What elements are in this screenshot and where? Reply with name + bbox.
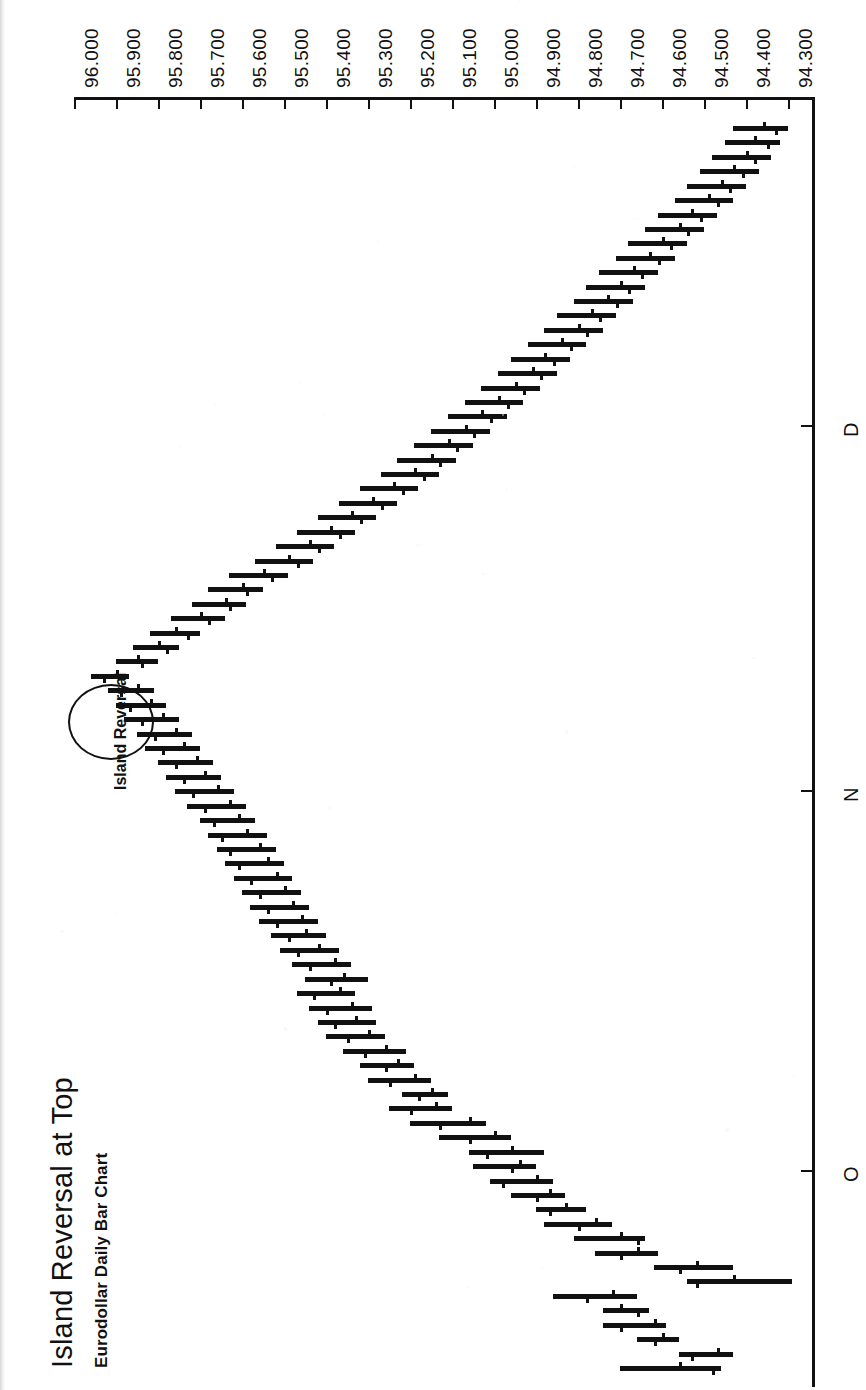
ohlc-bar	[0, 151, 866, 164]
ohlc-bar	[0, 1117, 866, 1130]
bar-open-tick	[158, 641, 161, 650]
bar-close-tick	[620, 1251, 623, 1260]
ohlc-bar	[0, 555, 866, 568]
bar-range	[603, 1323, 666, 1328]
bar-open-tick	[465, 425, 468, 434]
bar-range	[465, 400, 524, 405]
bar-range	[381, 472, 440, 477]
ohlc-bar	[0, 987, 866, 1000]
scan-speck	[284, 1027, 288, 1031]
bar-close-tick	[490, 414, 493, 423]
value-tick	[116, 100, 118, 109]
bar-open-tick	[162, 713, 165, 722]
bar-open-tick	[414, 468, 417, 477]
scan-speck	[735, 770, 737, 772]
bar-open-tick	[565, 1203, 568, 1212]
ohlc-bar	[0, 136, 866, 149]
ohlc-bar	[0, 1261, 866, 1274]
bar-close-tick	[570, 342, 573, 351]
bar-close-tick	[297, 559, 300, 568]
bar-close-tick	[402, 486, 405, 495]
bar-range	[234, 876, 293, 881]
scan-speck	[482, 573, 484, 575]
bar-open-tick	[305, 929, 308, 938]
bar-range	[490, 1179, 553, 1184]
bar-close-tick	[141, 659, 144, 668]
value-tick-label: 94.700	[627, 28, 649, 88]
bar-open-tick	[259, 843, 262, 852]
bar-range	[343, 1049, 406, 1054]
bar-close-tick	[549, 1207, 552, 1216]
bar-range	[603, 1308, 649, 1313]
bar-open-tick	[225, 598, 228, 607]
value-tick-label: 94.500	[711, 28, 733, 88]
bar-range	[725, 140, 780, 145]
bar-open-tick	[494, 1131, 497, 1140]
bar-open-tick	[351, 1002, 354, 1011]
ohlc-bar	[0, 843, 866, 856]
scan-speck	[565, 730, 569, 734]
value-tick	[74, 100, 76, 109]
bar-range	[658, 213, 717, 218]
bar-close-tick	[250, 876, 253, 885]
scan-speck	[322, 413, 325, 416]
bar-range	[574, 1236, 645, 1241]
value-tick	[410, 100, 412, 109]
bar-range	[175, 789, 234, 794]
bar-open-tick	[339, 987, 342, 996]
bar-range	[616, 256, 675, 261]
bar-range	[187, 804, 246, 809]
scan-speck	[123, 38, 126, 41]
bar-range	[557, 313, 616, 318]
bar-close-tick	[276, 919, 279, 928]
bar-open-tick	[620, 1304, 623, 1313]
scan-speck	[135, 826, 138, 829]
bar-close-tick	[729, 184, 732, 193]
scan-speck	[377, 240, 380, 243]
value-tick-label: 94.600	[669, 28, 691, 88]
ohlc-bar	[0, 1275, 866, 1288]
ohlc-bar	[0, 309, 866, 322]
ohlc-bar	[0, 526, 866, 539]
ohlc-bar	[0, 439, 866, 452]
bar-close-tick	[330, 977, 333, 986]
bar-open-tick	[754, 136, 757, 145]
ohlc-bar	[0, 901, 866, 914]
bar-open-tick	[267, 857, 270, 866]
bar-range	[242, 890, 301, 895]
bar-range	[305, 977, 368, 982]
bar-open-tick	[519, 1160, 522, 1169]
ohlc-bar	[0, 1131, 866, 1144]
scan-speck	[327, 806, 331, 810]
ohlc-bar	[0, 237, 866, 250]
bar-open-tick	[330, 526, 333, 535]
ohlc-bar	[0, 958, 866, 971]
bar-open-tick	[175, 728, 178, 737]
bar-open-tick	[649, 252, 652, 261]
bar-close-tick	[267, 905, 270, 914]
bar-close-tick	[238, 861, 241, 870]
chart-page: Island Reversal at Top Eurodollar Daily …	[0, 0, 866, 1390]
bar-range	[637, 1337, 679, 1342]
bar-open-tick	[229, 800, 232, 809]
bar-open-tick	[511, 1146, 514, 1155]
scan-speck	[580, 604, 583, 607]
bar-close-tick	[628, 285, 631, 294]
bar-close-tick	[523, 386, 526, 395]
bar-close-tick	[502, 1179, 505, 1188]
bar-close-tick	[309, 962, 312, 971]
ohlc-bar	[0, 1333, 866, 1346]
bar-range	[271, 933, 326, 938]
value-tick-label: 95.300	[375, 28, 397, 88]
bar-open-tick	[515, 382, 518, 391]
bar-close-tick	[360, 515, 363, 524]
bar-open-tick	[654, 1319, 657, 1328]
bar-range	[679, 1352, 734, 1357]
bar-close-tick	[700, 213, 703, 222]
bar-open-tick	[263, 569, 266, 578]
bar-open-tick	[276, 872, 279, 881]
bar-range	[645, 227, 704, 232]
bar-close-tick	[717, 198, 720, 207]
bar-close-tick	[658, 256, 661, 265]
value-tick	[662, 100, 664, 109]
